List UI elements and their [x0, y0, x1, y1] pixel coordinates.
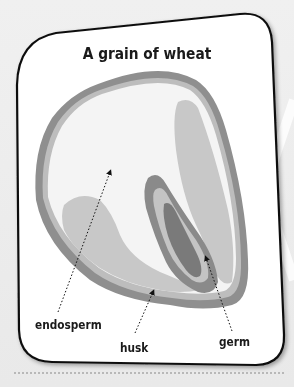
label-endosperm: endosperm — [35, 318, 102, 332]
diagram-title: A grain of wheat — [21, 44, 274, 63]
diagram-stage: A grain of wheat endosperm husk germ — [0, 0, 294, 387]
label-germ: germ — [219, 335, 250, 349]
decorative-dotted-rule — [14, 372, 284, 377]
label-husk: husk — [120, 341, 148, 355]
